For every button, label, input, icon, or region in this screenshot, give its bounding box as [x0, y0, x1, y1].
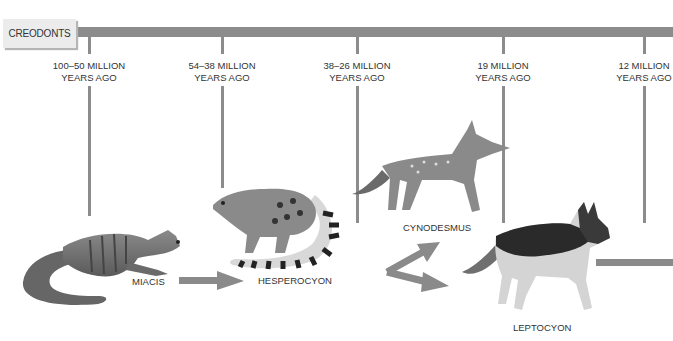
creodonts-origin-box: CREODONTS [3, 19, 76, 48]
hesperocyon-illustration [205, 165, 340, 275]
branch-arrows-icon [383, 240, 463, 295]
era-tick-3-top [356, 37, 359, 54]
species-label-hesperocyon: HESPEROCYON [258, 275, 332, 286]
era-tick-2-top [221, 37, 224, 54]
era-label-5: 12 MILLION YEARS AGO [589, 60, 673, 84]
era-tick-4-top [502, 37, 505, 54]
era-tick-1-top [88, 37, 91, 54]
leptocyon-illustration [460, 200, 620, 315]
era-label-1: 100–50 MILLION YEARS AGO [34, 60, 144, 84]
miacis-illustration [18, 212, 188, 312]
origin-label: CREODONTS [8, 28, 70, 39]
era-label-2: 54–38 MILLION YEARS AGO [167, 60, 277, 84]
era-tick-5-top [643, 37, 646, 54]
era-label-3: 38–26 MILLION YEARS AGO [302, 60, 412, 84]
timeline-bar [70, 27, 673, 37]
era-line-1 [88, 86, 91, 216]
species-label-miacis: MIACIS [132, 276, 165, 287]
species-label-leptocyon: LEPTOCYON [513, 322, 571, 333]
continuation-bar [596, 259, 673, 266]
era-label-4: 19 MILLION YEARS AGO [448, 60, 558, 84]
era-line-5 [643, 86, 646, 223]
